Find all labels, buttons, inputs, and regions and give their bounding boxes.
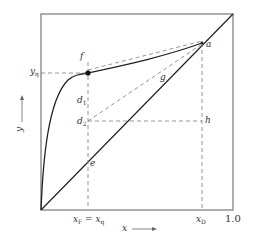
label-a: a (206, 40, 211, 49)
label-h: h (205, 116, 211, 125)
d1-sub: 1 (83, 99, 87, 106)
label-g: g (160, 73, 166, 82)
y-axis-label: y (15, 127, 24, 132)
y-arrow-head-icon (20, 95, 24, 100)
x-axis-label: x (122, 224, 127, 233)
d2-sub: 2 (83, 120, 87, 127)
label-xf-xq: xF = xq (73, 215, 104, 225)
xq-sub: q (101, 218, 105, 225)
mccabe-thiele-diagram (0, 0, 253, 244)
diagonal-line (41, 14, 233, 210)
label-e: e (90, 159, 95, 168)
label-yq: yq (30, 67, 39, 77)
pinch-point-marker (85, 70, 90, 75)
label-d2: d2 (77, 117, 87, 127)
x-arrow-head-icon (152, 227, 157, 231)
label-one: 1.0 (225, 214, 241, 224)
point-a-marker (201, 42, 204, 45)
label-xd: xD (196, 215, 206, 225)
label-d1: d1 (77, 96, 87, 106)
xd-sub: D (201, 218, 206, 225)
equals-sign: = (82, 214, 95, 224)
label-f: f (80, 52, 83, 61)
yq-sub: q (35, 70, 39, 77)
min-reflux-line (88, 41, 202, 70)
